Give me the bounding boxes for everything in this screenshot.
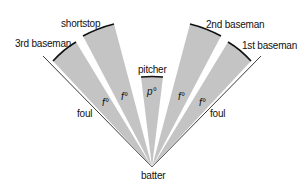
first-baseman-label: 1st baseman — [242, 40, 297, 51]
third-baseman-label: 3rd baseman — [15, 38, 71, 49]
pitcher-arc — [141, 77, 163, 78]
first-sector-angle: f° — [199, 97, 206, 108]
pitcher-label: pitcher — [138, 64, 167, 75]
third-sector-angle: f° — [102, 97, 109, 108]
baseball-fielding-diagram: 3rd baseman shortstop pitcher 2nd basema… — [0, 0, 304, 188]
batter-label: batter — [141, 170, 165, 181]
second-baseman-label: 2nd baseman — [206, 19, 264, 30]
right-foul-label: foul — [210, 108, 225, 119]
shortstop-sector-angle: f° — [121, 91, 128, 102]
pitcher-sector-angle: p° — [147, 86, 157, 97]
second-sector-angle: f° — [178, 91, 185, 102]
left-foul-label: foul — [77, 108, 92, 119]
shortstop-label: shortstop — [61, 18, 100, 29]
